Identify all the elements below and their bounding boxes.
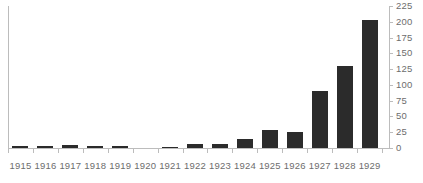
x-axis-tick-label: 1923 [208, 158, 233, 174]
x-axis-tick-label: 1915 [8, 158, 33, 174]
y-axis-tick-label: 25 [396, 127, 407, 137]
x-axis-tick [207, 149, 208, 153]
y-axis-tick [389, 6, 393, 7]
bar [312, 91, 328, 148]
x-axis-tick-label: 1922 [183, 158, 208, 174]
bar-slot [108, 6, 133, 148]
bar [337, 66, 353, 148]
bar-slot [257, 6, 282, 148]
x-axis-tick [307, 149, 308, 153]
x-axis-tick-label: 1919 [108, 158, 133, 174]
x-axis-tick [8, 149, 9, 153]
bar-slot [357, 6, 382, 148]
bar [237, 139, 253, 148]
x-axis-tick-label: 1921 [158, 158, 183, 174]
y-axis-tick-label: 125 [396, 64, 412, 74]
x-axis-tick [158, 149, 159, 153]
bar [87, 146, 103, 148]
x-axis-tick-label: 1928 [332, 158, 357, 174]
plot-area [8, 6, 382, 148]
x-axis-tick [382, 149, 383, 153]
bar-slot [232, 6, 257, 148]
x-axis-tick-label: 1926 [282, 158, 307, 174]
x-axis-tick [257, 149, 258, 153]
x-axis-tick [133, 149, 134, 153]
y-axis-tick-label: 150 [396, 48, 412, 58]
bar-slot [8, 6, 33, 148]
x-axis-tick-label: 1924 [232, 158, 257, 174]
y-axis-spine [389, 6, 390, 149]
bar-slot [83, 6, 108, 148]
bar [287, 132, 303, 148]
x-axis-tick [33, 149, 34, 153]
y-axis-tick-label: 0 [396, 143, 401, 153]
y-axis-tick [389, 69, 393, 70]
x-axis-tick-label: 1920 [133, 158, 158, 174]
y-axis-tick [389, 38, 393, 39]
x-axis-tick-label: 1929 [357, 158, 382, 174]
y-axis-tick [389, 85, 393, 86]
bar [112, 146, 128, 148]
y-axis-tick [389, 53, 393, 54]
bar-chart: 2252001751501251007550250 19151916191719… [0, 0, 423, 183]
y-axis-tick [389, 22, 393, 23]
bar [187, 144, 203, 148]
bar [62, 145, 78, 148]
y-axis-tick-label: 175 [396, 33, 412, 43]
bar-series [8, 6, 382, 148]
bar-slot [158, 6, 183, 148]
bar-slot [307, 6, 332, 148]
bar-slot [332, 6, 357, 148]
x-axis-tick [332, 149, 333, 153]
y-axis-tick-label: 75 [396, 96, 407, 106]
x-axis-tick-label: 1916 [33, 158, 58, 174]
x-axis-tick [232, 149, 233, 153]
y-axis-tick [389, 101, 393, 102]
bar-slot [58, 6, 83, 148]
x-axis-tick-label: 1918 [83, 158, 108, 174]
x-axis-tick [357, 149, 358, 153]
x-axis-labels: 1915191619171918191919201921192219231924… [8, 158, 382, 174]
bar-slot [183, 6, 208, 148]
bar [37, 146, 53, 148]
bar [362, 20, 378, 148]
y-axis-tick-label: 225 [396, 1, 412, 11]
x-axis-tick [83, 149, 84, 153]
bar [162, 147, 178, 148]
x-axis-tick-label: 1925 [257, 158, 282, 174]
x-axis-tick [108, 149, 109, 153]
y-axis-tick-label: 200 [396, 17, 412, 27]
x-axis-tick [282, 149, 283, 153]
bar [12, 146, 28, 148]
y-axis-tick [389, 148, 393, 149]
y-axis-tick [389, 132, 393, 133]
x-axis-tick-label: 1917 [58, 158, 83, 174]
bar [212, 144, 228, 148]
x-axis-tick [58, 149, 59, 153]
y-axis-tick-label: 50 [396, 111, 407, 121]
bar-slot [208, 6, 233, 148]
bar-slot [133, 6, 158, 148]
bar-slot [282, 6, 307, 148]
bar [262, 130, 278, 148]
bar-slot [33, 6, 58, 148]
x-axis-tick [183, 149, 184, 153]
y-axis-tick [389, 116, 393, 117]
x-axis-tick-label: 1927 [307, 158, 332, 174]
y-axis-tick-label: 100 [396, 80, 412, 90]
